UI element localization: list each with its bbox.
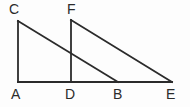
vertex-label-d: D bbox=[65, 87, 75, 101]
geometry-figure: C F A D B E bbox=[0, 0, 190, 107]
vertex-label-f: F bbox=[67, 2, 76, 16]
vertex-label-c: C bbox=[9, 2, 19, 16]
geometry-canvas bbox=[0, 0, 190, 107]
vertex-label-b: B bbox=[113, 87, 122, 101]
segment-hypotenuse-CB bbox=[18, 21, 118, 82]
vertex-label-a: A bbox=[11, 87, 20, 101]
vertex-label-e: E bbox=[166, 87, 175, 101]
segment-hypotenuse-FE bbox=[71, 20, 172, 82]
